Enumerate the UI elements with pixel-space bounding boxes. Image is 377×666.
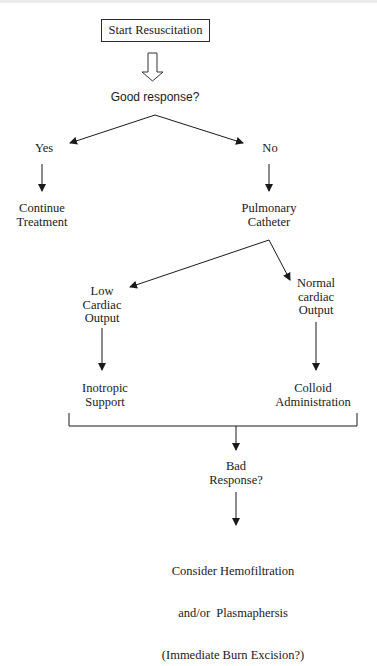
start-label: Start Resuscitation	[108, 23, 202, 38]
low-line3: Output	[83, 312, 122, 326]
hollow-down-arrow-icon	[142, 53, 163, 81]
yes-label: Yes	[35, 141, 53, 155]
final-line1: Consider Hemofiltration	[162, 564, 304, 578]
arrow-to-normal-output	[269, 240, 290, 280]
normal-line1: Normal	[297, 277, 335, 291]
continue-line2: Treatment	[17, 215, 68, 229]
inotropic-support-node: Inotropic Support	[82, 381, 128, 409]
arrow-to-no	[155, 115, 243, 143]
arrow-to-yes	[70, 115, 155, 143]
low-line1: Low	[83, 285, 122, 299]
inotropic-line2: Support	[82, 395, 128, 409]
bad-line2: Response?	[209, 473, 262, 487]
good-response-label: Good response?	[111, 90, 200, 104]
normal-cardiac-output-node: Normal cardiac Output	[297, 277, 335, 318]
catheter-line1: Pulmonary	[242, 201, 297, 215]
arrow-to-low-output	[130, 240, 269, 287]
final-line2: and/or Plasmaphersis	[162, 606, 304, 620]
catheter-line2: Catheter	[242, 215, 297, 229]
low-line2: Cardiac	[83, 299, 122, 313]
pulmonary-catheter-node: Pulmonary Catheter	[242, 201, 297, 229]
continue-treatment-node: Continue Treatment	[17, 201, 68, 229]
bad-response-node: Bad Response?	[209, 459, 262, 487]
start-resuscitation-box: Start Resuscitation	[101, 19, 210, 42]
normal-line2: cardiac	[297, 291, 335, 305]
low-cardiac-output-node: Low Cardiac Output	[83, 285, 122, 326]
continue-line1: Continue	[17, 201, 68, 215]
colloid-administration-node: Colloid Administration	[275, 381, 351, 409]
final-line3: (Immediate Burn Excision?)	[162, 648, 304, 662]
bad-line1: Bad	[209, 459, 262, 473]
final-recommendation-node: Consider Hemofiltration and/or Plasmaphe…	[162, 536, 304, 666]
normal-line3: Output	[297, 304, 335, 318]
colloid-line1: Colloid	[275, 381, 351, 395]
colloid-line2: Administration	[275, 395, 351, 409]
no-label: No	[262, 141, 277, 155]
merge-bracket	[69, 413, 357, 426]
inotropic-line1: Inotropic	[82, 381, 128, 395]
